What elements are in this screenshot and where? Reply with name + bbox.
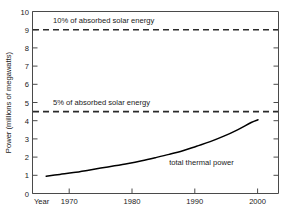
- y-label-1: 1: [25, 171, 29, 180]
- reference-label-5-percent: 5% of absorbed solar energy: [53, 98, 150, 107]
- y-label-0: 0: [25, 190, 29, 199]
- y-label-10: 10: [21, 8, 29, 17]
- y-label-2: 2: [25, 153, 29, 162]
- y-label-5: 5: [25, 99, 29, 108]
- x-label-1980: 1980: [124, 197, 141, 206]
- x-label-1990: 1990: [186, 197, 203, 206]
- y-label-4: 4: [25, 117, 29, 126]
- y-axis-title: Power (millions of megawatts): [4, 51, 13, 153]
- y-label-6: 6: [25, 80, 29, 89]
- series-label-total-thermal-power: total thermal power: [169, 158, 234, 167]
- x-axis-title: Year: [34, 197, 50, 206]
- chart-container: 10 9 8 7 6 5 4 3 2 1 0 1970 1980 1990 20…: [0, 0, 287, 216]
- y-label-9: 9: [25, 26, 29, 35]
- y-label-3: 3: [25, 135, 29, 144]
- y-label-8: 8: [25, 44, 29, 53]
- power-vs-year-line-chart: 10 9 8 7 6 5 4 3 2 1 0 1970 1980 1990 20…: [0, 0, 287, 216]
- reference-label-10-percent: 10% of absorbed solar energy: [53, 16, 155, 25]
- chart-background: [0, 0, 287, 216]
- y-label-7: 7: [25, 62, 29, 71]
- x-label-2000: 2000: [249, 197, 266, 206]
- x-label-1970: 1970: [61, 197, 78, 206]
